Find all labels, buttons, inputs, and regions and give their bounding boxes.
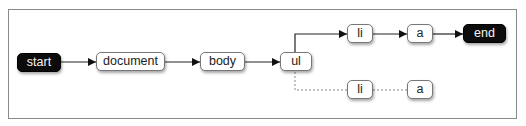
node-a-2: a <box>407 80 433 99</box>
node-end: end <box>463 24 506 43</box>
edges <box>0 0 526 126</box>
edge-ul-li <box>295 34 347 52</box>
node-ul: ul <box>280 52 312 71</box>
node-li-1: li <box>347 24 373 43</box>
node-document: document <box>96 52 165 71</box>
edge-ul-li-dotted <box>295 72 347 90</box>
node-a-1: a <box>407 24 433 43</box>
node-body: body <box>200 52 245 71</box>
node-li-2: li <box>347 80 373 99</box>
node-start: start <box>17 53 61 72</box>
